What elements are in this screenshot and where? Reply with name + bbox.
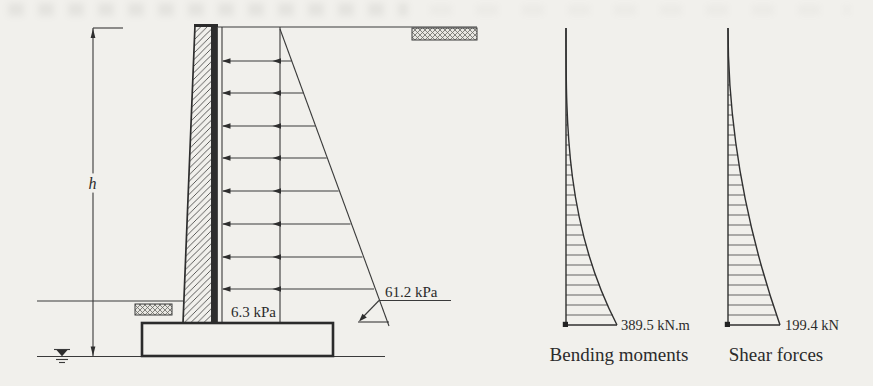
pressure-arrowhead-icon (222, 123, 231, 128)
pressure-arrowhead-icon (273, 123, 282, 128)
water-level-triangle-icon (57, 350, 68, 356)
height-dimension: h (89, 28, 124, 357)
pressure-arrowhead-icon (273, 90, 282, 95)
wall-back-face-band (211, 25, 217, 323)
height-label: h (89, 175, 97, 192)
dimension-arrow-up-icon (91, 29, 96, 39)
sf-base-dot (725, 322, 730, 327)
bm-curve (566, 28, 617, 325)
footing-outline (142, 323, 333, 356)
bm-max-label: 389.5 kN.m (621, 317, 691, 333)
bm-hatch-group (566, 115, 613, 315)
retaining-wall-figure: h 6.3 kPa 61.2 kP (37, 25, 477, 363)
bending-moment-figure: 389.5 kN.m Bending moments (550, 28, 691, 365)
pressure-arrowhead-icon (273, 254, 282, 259)
leader-line (363, 301, 379, 318)
wall-stem (183, 25, 218, 323)
pressure-arrowhead-icon (222, 90, 231, 95)
base-pressure-leader (359, 301, 451, 322)
dimension-arrow-down-icon (91, 347, 96, 357)
sf-curve (728, 28, 780, 325)
backfill-soil-block (412, 28, 477, 40)
uniform-pressure-label: 6.3 kPa (231, 304, 276, 320)
figure-canvas: h 6.3 kPa 61.2 kP (0, 0, 873, 386)
sf-hatch-group (728, 85, 777, 315)
shear-force-figure: 199.4 kN Shear forces (725, 28, 840, 365)
base-pressure-label: 61.2 kPa (385, 284, 438, 300)
pressure-arrowhead-icon (273, 188, 282, 193)
pressure-arrowhead-icon (222, 254, 231, 259)
pressure-arrowhead-icon (222, 188, 231, 193)
pressure-arrow-group (222, 58, 374, 291)
earth-pressure-diagram: 6.3 kPa 61.2 kPa (222, 27, 451, 326)
toe-soil-block (135, 304, 172, 315)
pressure-arrowhead-icon (222, 155, 231, 160)
sf-max-label: 199.4 kN (785, 317, 840, 333)
bm-base-dot (563, 322, 568, 327)
pressure-arrowhead-icon (222, 58, 231, 63)
sf-caption: Shear forces (729, 344, 823, 365)
pressure-arrowhead-icon (273, 58, 282, 63)
pressure-slope-line (280, 29, 389, 326)
pressure-arrowhead-icon (273, 155, 282, 160)
pressure-arrowhead-icon (273, 286, 282, 291)
pressure-arrowhead-icon (222, 286, 231, 291)
bm-caption: Bending moments (550, 344, 689, 365)
pressure-arrowhead-icon (222, 221, 231, 226)
pressure-arrowhead-icon (273, 221, 282, 226)
engineering-figure: h 6.3 kPa 61.2 kP (0, 0, 873, 386)
